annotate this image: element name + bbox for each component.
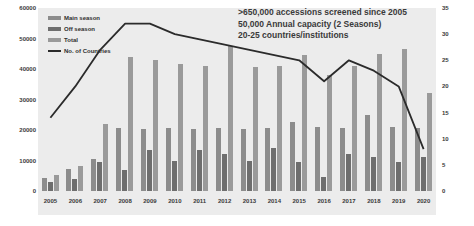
- bar-total: [352, 66, 357, 191]
- annotation-line: >650,000 accessions screened since 2005: [238, 7, 472, 19]
- bar-main-season: [415, 128, 420, 191]
- y2-tick-label: 5: [442, 162, 445, 168]
- bar-off-season: [247, 161, 252, 191]
- bar-off-season: [222, 154, 227, 191]
- bar-group: [191, 8, 216, 191]
- x-axis-labels: 2005200620072008200920102011201220132014…: [38, 192, 436, 216]
- y-tick-label: 50000: [19, 36, 36, 42]
- y-tick-label: 10000: [19, 158, 36, 164]
- legend-item: Total: [48, 34, 168, 45]
- y2-tick-label: 25: [442, 57, 449, 63]
- x-tick-label: 2007: [94, 198, 107, 204]
- y2-tick-label: 20: [442, 83, 449, 89]
- bar-off-season: [296, 162, 301, 191]
- y-axis-left: 0100002000030000400005000060000: [0, 0, 36, 226]
- x-tick-label: 2008: [118, 198, 131, 204]
- x-tick-label: 2016: [317, 198, 330, 204]
- bar-off-season: [421, 157, 426, 191]
- annotation-line: 50,000 Annual capacity (2 Seasons): [238, 19, 472, 31]
- legend-bar-icon: [48, 38, 61, 42]
- x-tick-label: 2019: [392, 198, 405, 204]
- bar-off-season: [72, 179, 77, 191]
- bar-main-season: [290, 122, 295, 191]
- y2-tick-label: 15: [442, 110, 449, 116]
- bar-main-season: [66, 169, 71, 191]
- bar-off-season: [321, 177, 326, 191]
- bar-total: [103, 124, 108, 191]
- bar-total: [78, 166, 83, 191]
- bar-group: [166, 8, 191, 191]
- bar-total: [228, 46, 233, 191]
- bar-total: [402, 49, 407, 191]
- bar-total: [153, 60, 158, 191]
- bar-total: [327, 75, 332, 191]
- x-tick-label: 2011: [193, 198, 206, 204]
- chart-screenshot: 0100002000030000400005000060000 05101520…: [0, 0, 474, 226]
- legend-bar-icon: [48, 16, 61, 20]
- bar-off-season: [271, 148, 276, 191]
- y2-tick-label: 10: [442, 136, 449, 142]
- x-tick-label: 2014: [268, 198, 281, 204]
- bar-total: [302, 55, 307, 191]
- bar-main-season: [340, 128, 345, 191]
- bar-total: [377, 54, 382, 191]
- x-tick-label: 2009: [143, 198, 156, 204]
- legend-item: Off season: [48, 23, 168, 34]
- bar-off-season: [172, 161, 177, 192]
- x-tick-label: 2005: [44, 198, 57, 204]
- bar-group: [216, 8, 241, 191]
- bar-main-season: [166, 128, 171, 191]
- bar-off-season: [197, 150, 202, 191]
- bar-total: [277, 66, 282, 191]
- legend-label: No. of Countries: [64, 48, 111, 54]
- x-tick-label: 2006: [69, 198, 82, 204]
- bar-off-season: [346, 154, 351, 191]
- bar-main-season: [365, 115, 370, 191]
- x-tick-label: 2018: [367, 198, 380, 204]
- x-tick-label: 2010: [168, 198, 181, 204]
- bar-main-season: [116, 128, 121, 191]
- y-tick-label: 40000: [19, 66, 36, 72]
- bar-main-season: [390, 127, 395, 191]
- legend-label: Main season: [64, 15, 100, 21]
- bar-off-season: [147, 150, 152, 191]
- y-tick-label: 0: [33, 188, 36, 194]
- bar-off-season: [122, 170, 127, 191]
- bar-main-season: [315, 127, 320, 191]
- legend-bar-icon: [48, 27, 61, 31]
- bar-total: [203, 66, 208, 191]
- bar-main-season: [91, 159, 96, 191]
- bar-off-season: [97, 162, 102, 191]
- legend-label: Total: [64, 37, 78, 43]
- bar-off-season: [396, 162, 401, 191]
- bar-main-season: [191, 129, 196, 191]
- y-tick-label: 30000: [19, 97, 36, 103]
- y-tick-label: 20000: [19, 127, 36, 133]
- bar-off-season: [48, 182, 53, 191]
- x-tick-label: 2013: [243, 198, 256, 204]
- legend-item: Main season: [48, 12, 168, 23]
- annotation-line: 20-25 countries/institutions: [238, 30, 472, 42]
- legend-line-icon: [48, 50, 61, 52]
- x-tick-label: 2017: [342, 198, 355, 204]
- x-tick-label: 2020: [417, 198, 430, 204]
- x-tick-label: 2012: [218, 198, 231, 204]
- bar-main-season: [265, 128, 270, 191]
- bar-off-season: [371, 157, 376, 191]
- bar-main-season: [216, 128, 221, 191]
- bar-total: [253, 67, 258, 191]
- bar-total: [128, 57, 133, 191]
- legend-item: No. of Countries: [48, 45, 168, 56]
- chart-legend: Main seasonOff seasonTotalNo. of Countri…: [48, 12, 168, 56]
- bar-main-season: [241, 129, 246, 191]
- y2-tick-label: 0: [442, 188, 445, 194]
- bar-main-season: [42, 178, 47, 191]
- legend-label: Off season: [64, 26, 95, 32]
- y-tick-label: 60000: [19, 5, 36, 11]
- bar-total: [178, 64, 183, 191]
- annotation-block: >650,000 accessions screened since 20055…: [238, 7, 472, 42]
- bar-total: [427, 93, 432, 191]
- bar-total: [54, 175, 59, 191]
- bar-main-season: [141, 129, 146, 191]
- x-tick-label: 2015: [293, 198, 306, 204]
